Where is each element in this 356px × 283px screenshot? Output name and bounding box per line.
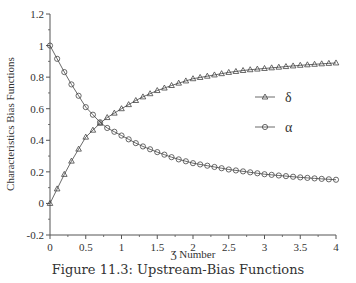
series-lines	[47, 43, 339, 205]
series-alpha	[47, 43, 338, 182]
x-tick-label: 0.5	[79, 241, 93, 253]
x-axis-label: Ʒ Number	[171, 248, 216, 260]
x-tick-label: 2.5	[222, 241, 236, 253]
x-tick-label: 4	[333, 241, 339, 253]
series-delta	[47, 60, 339, 205]
y-tick-label: 0.2	[30, 166, 44, 178]
y-tick-label: 1	[39, 40, 45, 52]
y-axis-label: Characteristics Bias Functions	[4, 57, 16, 191]
x-tick-label: 1	[119, 241, 125, 253]
x-tick-label: 1.5	[150, 241, 164, 253]
bias-functions-chart: -0.200.20.40.60.811.200.511.522.533.54 δ…	[0, 0, 356, 262]
y-tick-label: 0	[39, 197, 45, 209]
legend-label: α	[285, 120, 293, 135]
x-tick-label: 3.5	[293, 241, 307, 253]
y-tick-label: 1.2	[30, 8, 44, 20]
axes: -0.200.20.40.60.811.200.511.522.533.54	[27, 8, 340, 253]
x-tick-label: 0	[47, 241, 53, 253]
figure-caption: Figure 11.3: Upstream-Bias Functions	[0, 262, 356, 277]
legend-item: α	[255, 120, 293, 135]
x-tick-label: 3	[262, 241, 268, 253]
y-tick-label: -0.2	[27, 229, 44, 241]
y-tick-label: 0.8	[30, 71, 44, 83]
legend: δα	[255, 90, 293, 135]
legend-label: δ	[285, 90, 292, 105]
y-tick-label: 0.6	[30, 103, 44, 115]
y-tick-label: 0.4	[30, 134, 44, 146]
legend-item: δ	[255, 90, 292, 105]
